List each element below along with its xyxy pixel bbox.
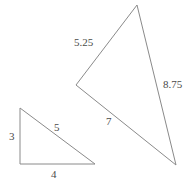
small-triangle-label-left: 3 bbox=[9, 131, 15, 142]
triangles-svg bbox=[0, 0, 188, 188]
large-triangle-label-lower-left: 7 bbox=[106, 116, 112, 127]
large-triangle bbox=[76, 5, 176, 165]
small-triangle bbox=[20, 108, 95, 164]
small-triangle-label-bottom: 4 bbox=[51, 169, 57, 180]
small-triangle-label-hypotenuse: 5 bbox=[54, 122, 60, 133]
large-triangle-label-upper-left: 5.25 bbox=[74, 37, 93, 48]
geometry-figure-canvas: 3 5 4 5.25 8.75 7 bbox=[0, 0, 188, 188]
large-triangle-label-right: 8.75 bbox=[163, 79, 182, 90]
